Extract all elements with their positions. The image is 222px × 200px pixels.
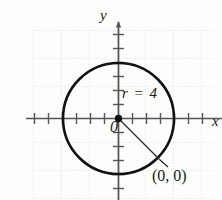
y-axis-label: y [100,8,107,23]
x-axis-label: x [212,114,219,129]
origin-label: 0 [110,119,118,135]
circle-graph-figure [0,0,222,200]
origin-point-label: (0, 0) [152,168,187,184]
figure-page: 3. [0,0,222,200]
radius-label: r = 4 [122,86,158,101]
